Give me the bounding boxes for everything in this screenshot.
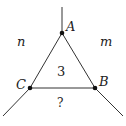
region-label-inside: 3	[57, 64, 65, 79]
region-label-left: n	[17, 34, 25, 49]
side-ab	[62, 33, 95, 88]
ray-from-c	[3, 88, 30, 116]
label-c: C	[16, 77, 26, 92]
point-a	[60, 31, 65, 36]
ray-from-b	[95, 88, 123, 116]
label-b: B	[98, 74, 109, 89]
region-label-right: m	[100, 34, 112, 49]
point-b	[93, 86, 98, 91]
label-a: A	[65, 19, 75, 34]
region-label-bottom: ?	[57, 96, 63, 110]
side-ac	[30, 33, 62, 88]
triangle-diagram: A B C n m 3 ?	[0, 0, 126, 126]
point-c	[28, 86, 33, 91]
